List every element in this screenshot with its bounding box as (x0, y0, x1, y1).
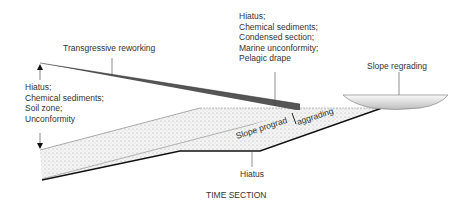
time-section-title: TIME SECTION (206, 190, 266, 201)
slope-regrading-lens (343, 95, 448, 110)
up-arrow-icon (37, 64, 43, 70)
top-hiatus-label: Hiatus; Chemical sediments; Condensed se… (239, 11, 318, 64)
down-arrow-icon (37, 143, 43, 149)
bottom-hiatus-label: Hiatus (240, 169, 264, 180)
transgressive-reworking-label: Transgressive reworking (63, 43, 155, 54)
slope-regrading-label: Slope regrading (367, 61, 427, 72)
left-hiatus-label: Hiatus; Chemical sediments; Soil zone; U… (25, 82, 104, 124)
